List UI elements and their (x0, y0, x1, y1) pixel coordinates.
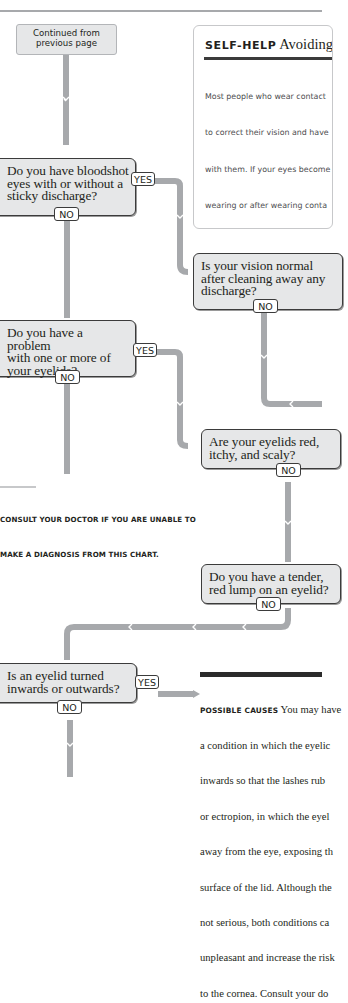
no-label: NO (253, 299, 278, 313)
causes-line: POSSIBLE CAUSES You may have (200, 704, 348, 717)
self-help-rule (204, 57, 333, 60)
question-eyelids-red-itchy: Are your eyelids red, itchy, and scaly? (201, 429, 341, 469)
question-eyelid-problem: Do you have a problem with one or more o… (0, 320, 136, 377)
question-eyelid-turned: Is an eyelid turned inwards or outwards? (0, 663, 137, 703)
consult-line: MAKE A DIAGNOSIS FROM THIS CHART. (0, 549, 160, 561)
causes-line: to the cornea. Consult your do (200, 988, 348, 1000)
self-help-body: Most people who wear contact to correct … (205, 67, 333, 229)
self-help-line: Most people who wear contact (205, 91, 333, 103)
possible-causes-keyword: POSSIBLE CAUSES (200, 706, 278, 715)
yes-label: YES (133, 343, 157, 357)
self-help-line: wearing or after wearing conta (205, 200, 333, 212)
causes-line: inwards so that the lashes rub (200, 775, 348, 787)
possible-causes-text: POSSIBLE CAUSES You may have a condition… (200, 680, 348, 1003)
self-help-keyword: SELF-HELP (205, 39, 276, 52)
continued-from-previous-page: Continued from previous page (16, 24, 117, 55)
causes-line-text: You may have (281, 704, 342, 715)
consult-doctor-note: CONSULT YOUR DOCTOR IF YOU ARE UNABLE TO… (0, 491, 160, 572)
self-help-heading: Avoiding (279, 36, 333, 52)
no-label: NO (55, 370, 80, 384)
causes-line: away from the eye, exposing th (200, 846, 348, 858)
causes-line: surface of the lid. Although the (200, 882, 348, 894)
no-label: NO (256, 597, 281, 611)
no-label: NO (57, 700, 82, 714)
self-help-line: to correct their vision and have (205, 127, 333, 139)
no-label: NO (276, 463, 301, 477)
causes-line: a condition in which the eyelic (200, 740, 348, 752)
self-help-line: with them. If your eyes become (205, 164, 333, 176)
yes-label: YES (135, 675, 159, 689)
consult-rule-top (0, 486, 36, 488)
yes-label: YES (131, 172, 155, 186)
causes-line: unpleasant and increase the risk (200, 952, 348, 964)
top-divider (0, 10, 322, 12)
possible-causes-rule (200, 672, 322, 677)
self-help-panel: SELF-HELP Avoiding Most people who wear … (193, 25, 333, 229)
self-help-title: SELF-HELP Avoiding (205, 36, 333, 53)
causes-line: not serious, both conditions ca (200, 917, 348, 929)
no-label: NO (54, 207, 79, 221)
causes-line: or ectropion, in which the eyel (200, 811, 348, 823)
consult-line: CONSULT YOUR DOCTOR IF YOU ARE UNABLE TO (0, 514, 160, 526)
